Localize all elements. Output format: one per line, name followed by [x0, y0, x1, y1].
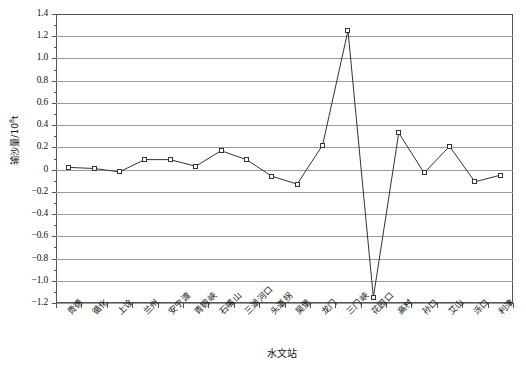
- y-axis-title: 输沙量/108t: [7, 108, 21, 172]
- y-axis-title-base: 输沙量/10: [9, 122, 20, 164]
- data-point-marker: [320, 143, 325, 148]
- data-point-marker: [168, 157, 173, 162]
- data-point-marker: [219, 148, 224, 153]
- data-point-marker: [396, 130, 401, 135]
- data-point-marker: [92, 166, 97, 171]
- data-point-marker: [345, 28, 350, 33]
- chart-root: 1.41.21.00.80.60.40.20−0.2−0.4−0.6−0.8−1…: [0, 0, 526, 366]
- data-point-marker: [447, 144, 452, 149]
- data-point-marker: [472, 179, 477, 184]
- data-point-marker: [422, 170, 427, 175]
- series-polyline: [69, 31, 501, 298]
- data-point-marker: [142, 157, 147, 162]
- y-axis-title-unit: t: [9, 115, 20, 119]
- data-point-marker: [295, 182, 300, 187]
- data-point-marker: [371, 295, 376, 300]
- data-point-marker: [498, 173, 503, 178]
- y-axis-title-exponent: 8: [8, 118, 15, 122]
- data-point-marker: [117, 169, 122, 174]
- data-series-line: [0, 0, 526, 366]
- data-point-marker: [269, 174, 274, 179]
- data-point-marker: [244, 157, 249, 162]
- data-point-marker: [193, 164, 198, 169]
- data-point-marker: [66, 165, 71, 170]
- x-axis-title: 水文站: [267, 345, 297, 360]
